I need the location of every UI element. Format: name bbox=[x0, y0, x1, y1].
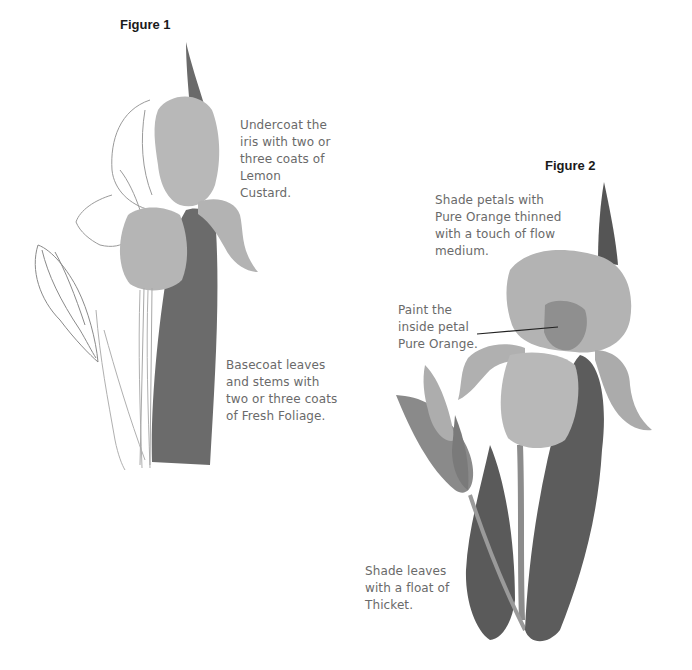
figure2-spike-leaf bbox=[598, 182, 618, 265]
figure2-note-inside-petal: Paint the inside petal Pure Orange. bbox=[398, 302, 478, 353]
figure1-note-basecoat: Basecoat leaves and stems with two or th… bbox=[226, 357, 337, 425]
figure2-note-shade-leaves: Shade leaves with a float of Thicket. bbox=[365, 563, 449, 614]
figure1-title: Figure 1 bbox=[120, 17, 171, 32]
figure2-stem bbox=[520, 445, 522, 620]
figure1-sketch-bud bbox=[35, 245, 98, 362]
figure1-note-undercoat: Undercoat the iris with two or three coa… bbox=[240, 117, 331, 202]
figure2-note-shade-petals: Shade petals with Pure Orange thinned wi… bbox=[435, 192, 561, 260]
figure1-upper-petal bbox=[155, 97, 220, 207]
figure2-lower-fall bbox=[501, 352, 579, 448]
illustration-canvas bbox=[0, 0, 692, 670]
figure2-title: Figure 2 bbox=[545, 158, 596, 173]
figure1-lower-petal bbox=[120, 208, 187, 291]
figure1-illustration bbox=[35, 42, 258, 470]
figure1-stem bbox=[140, 288, 152, 465]
figure2-left-leaf bbox=[466, 445, 515, 640]
